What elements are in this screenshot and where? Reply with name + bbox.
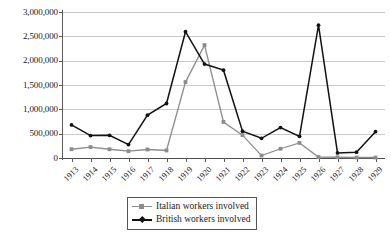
legend-label-italian: Italian workers involved <box>156 201 249 212</box>
data-point <box>336 155 340 159</box>
data-point <box>279 147 283 151</box>
data-point <box>89 134 93 138</box>
data-point <box>222 68 226 72</box>
y-tick-mark <box>59 109 63 110</box>
data-point <box>355 150 359 154</box>
data-point <box>241 129 245 133</box>
data-point <box>279 126 283 130</box>
data-point <box>298 141 302 145</box>
data-point <box>184 30 188 34</box>
y-tick-mark <box>59 134 63 135</box>
data-point <box>260 136 264 140</box>
data-point <box>260 154 264 158</box>
data-point <box>374 130 378 134</box>
data-point <box>184 80 188 84</box>
data-point <box>222 120 226 124</box>
series-british <box>70 23 378 155</box>
legend-label-british: British workers involved <box>156 214 250 225</box>
data-point <box>355 156 359 160</box>
data-point <box>108 133 112 137</box>
data-point <box>298 134 302 138</box>
data-point <box>89 145 93 149</box>
data-point <box>108 147 112 151</box>
data-point <box>127 149 131 153</box>
y-tick-mark <box>59 158 63 159</box>
data-point <box>203 62 207 66</box>
data-point <box>165 149 169 153</box>
y-tick-mark <box>59 36 63 37</box>
data-point <box>127 143 131 147</box>
data-point <box>374 156 378 160</box>
data-point <box>70 123 74 127</box>
y-tick-mark <box>59 85 63 86</box>
y-tick-mark <box>59 61 63 62</box>
legend-item-italian: Italian workers involved <box>132 200 250 213</box>
data-point <box>70 147 74 151</box>
legend-marker-italian <box>132 202 152 212</box>
series-italian <box>70 43 378 159</box>
legend-item-british: British workers involved <box>132 213 250 226</box>
data-point <box>146 113 150 117</box>
y-tick-mark <box>59 12 63 13</box>
data-point <box>165 102 169 106</box>
data-point <box>317 23 321 27</box>
data-point <box>241 133 245 137</box>
data-point <box>317 155 321 159</box>
legend: Italian workers involved British workers… <box>127 197 257 230</box>
line-chart: 3,000,0002,500,0002,000,0001,500,0001,00… <box>0 0 391 233</box>
data-point <box>203 43 207 47</box>
series-line <box>72 25 376 153</box>
legend-marker-british <box>132 215 152 225</box>
data-point <box>336 151 340 155</box>
data-point <box>146 148 150 152</box>
